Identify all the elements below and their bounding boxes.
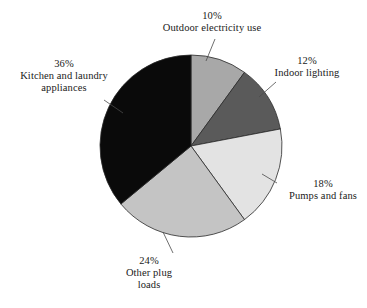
pie-slices (100, 55, 282, 237)
pie-label-other-percent: 24% (104, 255, 194, 267)
pie-label-outdoor-electricity-use: 10% Outdoor electricity use (151, 10, 273, 34)
pie-label-outdoor-percent: 10% (151, 10, 273, 22)
pie-label-indoor-lighting: 12% Indoor lighting (252, 55, 362, 79)
pie-chart: 10% Outdoor electricity use 12% Indoor l… (0, 0, 367, 308)
pie-label-pumps-name: Pumps and fans (278, 190, 367, 202)
pie-label-kitchen-percent: 36% (4, 58, 124, 70)
pie-label-other-name-line2: loads (104, 279, 194, 291)
pie-label-kitchen-name-line2: appliances (4, 82, 124, 94)
pie-label-outdoor-name: Outdoor electricity use (151, 22, 273, 34)
pie-label-kitchen-name: Kitchen and laundry (4, 70, 124, 82)
pie-label-kitchen-and-laundry-appliances: 36% Kitchen and laundry appliances (4, 58, 124, 93)
pie-label-pumps-percent: 18% (278, 178, 367, 190)
pie-label-other-plug-loads: 24% Other plug loads (104, 255, 194, 290)
pie-label-pumps-and-fans: 18% Pumps and fans (278, 178, 367, 202)
pie-label-other-name: Other plug (104, 267, 194, 279)
pie-label-indoor-percent: 12% (252, 55, 362, 67)
pie-label-indoor-name: Indoor lighting (252, 67, 362, 79)
